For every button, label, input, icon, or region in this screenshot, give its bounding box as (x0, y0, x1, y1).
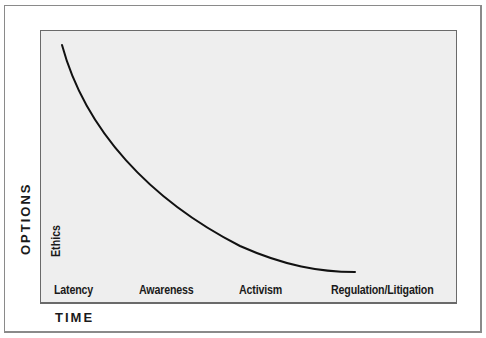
y-axis-title: OPTIONS (18, 182, 33, 255)
stage-label-regulation-litigation: Regulation/Litigation (331, 282, 434, 297)
stage-label-activism: Activism (239, 282, 282, 297)
x-axis-title: TIME (55, 310, 94, 325)
plot-area (40, 30, 457, 304)
stage-label-awareness: Awareness (139, 282, 194, 297)
ethics-label: Ethics (48, 225, 63, 257)
stage-label-latency: Latency (54, 282, 93, 297)
